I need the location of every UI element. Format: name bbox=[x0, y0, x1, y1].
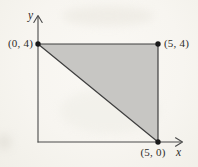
dot-5-4 bbox=[155, 41, 160, 46]
coordinate-plane-figure bbox=[0, 0, 198, 167]
y-axis-label: y bbox=[28, 9, 33, 22]
label-point-5-4: (5, 4) bbox=[164, 37, 189, 50]
dot-5-0 bbox=[155, 139, 160, 144]
dot-0-4 bbox=[35, 41, 40, 46]
label-point-5-0: (5, 0) bbox=[136, 146, 170, 159]
label-point-0-4: (0, 4) bbox=[0, 37, 33, 50]
figure-stage: (0, 4) (5, 4) (5, 0) y x bbox=[0, 0, 198, 167]
x-axis-label: x bbox=[176, 146, 181, 159]
